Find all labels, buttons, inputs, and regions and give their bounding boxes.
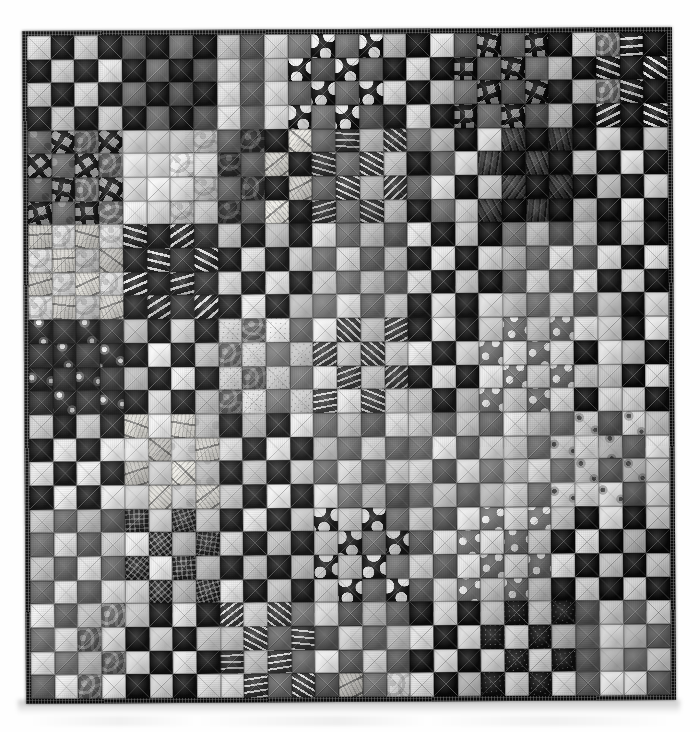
quilt-patch: [434, 625, 458, 649]
quilt-patch-fabric: [265, 271, 289, 295]
quilt-patch-fabric: [173, 674, 197, 698]
quilt-patch-fabric: [267, 579, 291, 603]
quilt-patch: [171, 295, 195, 319]
quilt-patch: [265, 176, 289, 200]
quilt-patch: [383, 152, 407, 176]
quilt-patch: [99, 201, 123, 225]
quilt-patch-fabric: [147, 319, 171, 343]
quilt-patch-fabric: [171, 343, 195, 367]
quilt-patch: [620, 174, 644, 198]
quilt-patch-fabric: [54, 628, 78, 652]
quilt-patch: [148, 390, 172, 414]
quilt-patch: [360, 152, 384, 176]
quilt-patch-fabric: [408, 294, 432, 318]
quilt-patch: [645, 316, 669, 340]
quilt-patch: [217, 58, 241, 82]
quilt-patch-fabric: [217, 82, 241, 106]
quilt-patch-fabric: [219, 366, 243, 390]
quilt-patch: [431, 152, 455, 176]
quilt-patch-fabric: [644, 79, 668, 103]
quilt-patch: [458, 673, 482, 697]
quilt-patch-fabric: [407, 152, 431, 176]
quilt-patch: [431, 128, 455, 152]
quilt-patch: [622, 435, 646, 459]
quilt-patch: [312, 81, 336, 105]
quilt-patch-fabric: [51, 154, 75, 178]
quilt-patch-fabric: [362, 484, 386, 508]
quilt-patch-fabric: [194, 295, 218, 319]
quilt-patch: [147, 201, 171, 225]
quilt-patch: [598, 388, 622, 412]
quilt-patch: [173, 603, 197, 627]
quilt-patch: [196, 579, 220, 603]
quilt-patch-fabric: [575, 553, 599, 577]
quilt-patch-fabric: [598, 459, 622, 483]
quilt-patch-fabric: [148, 461, 172, 485]
quilt-patch-fabric: [623, 671, 647, 695]
quilt-patch-fabric: [219, 461, 243, 485]
quilt-patch: [76, 343, 100, 367]
quilt-patch: [266, 390, 290, 414]
quilt-patch-fabric: [123, 248, 147, 272]
quilt-patch: [431, 270, 455, 294]
quilt-patch-fabric: [197, 627, 221, 651]
quilt-patch: [646, 529, 670, 553]
quilt-patch: [432, 365, 456, 389]
quilt-patch: [125, 509, 149, 533]
quilt-patch: [480, 412, 504, 436]
quilt-patch: [171, 366, 195, 390]
quilt-patch: [100, 414, 124, 438]
quilt-patch-fabric: [409, 436, 433, 460]
quilt-patch: [77, 414, 101, 438]
quilt-patch: [621, 198, 645, 222]
quilt-patch-fabric: [52, 178, 76, 202]
quilt-patch-fabric: [312, 129, 336, 153]
quilt-patch: [100, 343, 124, 367]
quilt-patch-fabric: [455, 270, 479, 294]
quilt-patch: [55, 675, 79, 699]
quilt-patch: [620, 151, 644, 175]
quilt-patch: [289, 295, 313, 319]
quilt-patch: [193, 58, 217, 82]
quilt-patch: [244, 674, 268, 698]
quilt-patch-fabric: [124, 390, 148, 414]
quilt-patch-fabric: [75, 178, 99, 202]
quilt-patch-fabric: [315, 673, 339, 697]
quilt-patch-fabric: [528, 648, 552, 672]
quilt-patch: [264, 105, 288, 129]
quilt-patch-fabric: [360, 223, 384, 247]
quilt-patch: [29, 320, 53, 344]
quilt-patch: [433, 507, 457, 531]
quilt-patch: [29, 391, 53, 415]
quilt-patch: [149, 674, 173, 698]
quilt-patch: [574, 340, 598, 364]
quilt-patch-fabric: [169, 82, 193, 106]
quilt-patch-fabric: [312, 105, 336, 129]
quilt-patch: [289, 200, 313, 224]
quilt-patch: [385, 389, 409, 413]
quilt-patch: [645, 364, 669, 388]
quilt-patch: [596, 32, 620, 56]
quilt-patch: [314, 531, 338, 555]
quilt-patch-fabric: [526, 199, 550, 223]
quilt-patch-fabric: [194, 153, 218, 177]
quilt-patch: [622, 458, 646, 482]
quilt-patch-fabric: [315, 650, 339, 674]
quilt-patch-fabric: [149, 603, 173, 627]
quilt-patch: [28, 202, 52, 226]
quilt-patch-fabric: [621, 269, 645, 293]
quilt-patch: [455, 223, 479, 247]
quilt-patch: [527, 459, 551, 483]
quilt-patch-fabric: [265, 176, 289, 200]
quilt-patch: [431, 223, 455, 247]
quilt-patch: [313, 342, 337, 366]
quilt-patch: [335, 34, 359, 58]
quilt-patch: [477, 33, 501, 57]
quilt-patch: [101, 462, 125, 486]
quilt-patch: [149, 580, 173, 604]
quilt-patch: [148, 367, 172, 391]
quilt-patch: [410, 625, 434, 649]
quilt-patch-fabric: [241, 224, 265, 248]
quilt-patch: [53, 343, 77, 367]
quilt-patch-fabric: [502, 246, 526, 270]
